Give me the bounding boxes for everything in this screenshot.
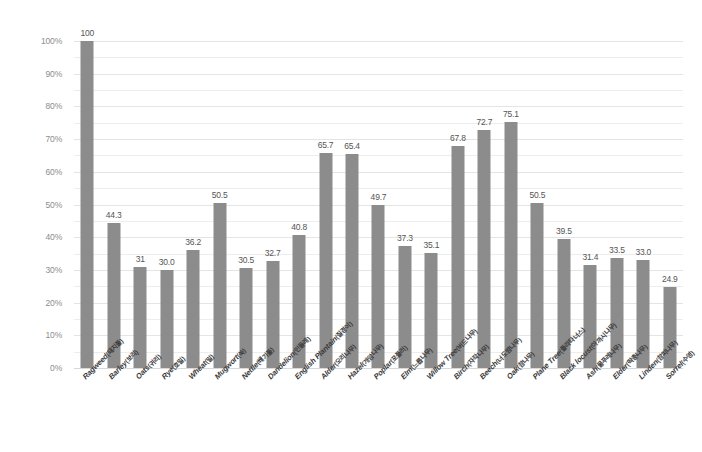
bar-value-label: 31.4 (582, 252, 598, 262)
y-tick-label: 30% (22, 265, 62, 275)
bar-value-label: 75.1 (503, 109, 519, 119)
bar-value-label: 36.2 (185, 237, 201, 247)
bar[interactable] (213, 203, 226, 368)
bar-value-label: 33.5 (609, 245, 625, 255)
bar[interactable] (187, 250, 200, 368)
y-tick-label: 90% (22, 69, 62, 79)
bar-slot: 24.9 (657, 41, 683, 368)
bar-value-label: 24.9 (662, 274, 678, 284)
y-tick-label: 60% (22, 167, 62, 177)
bar-slot: 65.7 (312, 41, 338, 368)
y-axis: 0%10%20%30%40%50%60%70%80%90%100% (0, 41, 66, 368)
bar-value-label: 32.7 (265, 248, 281, 258)
bar-slot: 32.7 (259, 41, 285, 368)
y-tick-label: 70% (22, 134, 62, 144)
bar-value-label: 65.7 (318, 140, 334, 150)
bar-slot: 40.8 (286, 41, 312, 368)
bar-slot: 65.4 (339, 41, 365, 368)
bar-value-label: 37.3 (397, 233, 413, 243)
y-tick-label: 10% (22, 330, 62, 340)
bar-value-label: 33.0 (635, 247, 651, 257)
bar-slot: 72.7 (471, 41, 497, 368)
bar[interactable] (346, 154, 359, 368)
bar-slot: 33.0 (630, 41, 656, 368)
y-tick-label: 100% (22, 36, 62, 46)
bar[interactable] (531, 203, 544, 368)
bar-value-label: 40.8 (291, 222, 307, 232)
bar-value-label: 35.1 (424, 240, 440, 250)
y-tick-label: 20% (22, 298, 62, 308)
y-tick-label: 50% (22, 200, 62, 210)
bar-value-label: 67.8 (450, 133, 466, 143)
bar-slot: 100 (74, 41, 100, 368)
bar-value-label: 30.5 (238, 255, 254, 265)
bar-value-label: 100 (80, 28, 94, 38)
bar[interactable] (81, 41, 94, 368)
x-axis-categories: Ragweed(돼지풀)Barley(보리)Oats(귀리)Rye(호밀)Whe… (74, 372, 683, 452)
bar[interactable] (478, 130, 491, 368)
bar-slot: 44.3 (100, 41, 126, 368)
bar-value-label: 50.5 (212, 190, 228, 200)
bar-slot: 39.5 (551, 41, 577, 368)
bar-slot: 75.1 (498, 41, 524, 368)
bar-slot: 37.3 (392, 41, 418, 368)
bar-slot: 31 (127, 41, 153, 368)
bar-slot: 33.5 (604, 41, 630, 368)
bar-slot: 36.2 (180, 41, 206, 368)
bar-slot: 49.7 (365, 41, 391, 368)
bar-value-label: 39.5 (556, 226, 572, 236)
bar-value-label: 30.0 (159, 257, 175, 267)
bar-value-label: 49.7 (371, 192, 387, 202)
bar-slot: 50.5 (206, 41, 232, 368)
y-tick-label: 40% (22, 232, 62, 242)
bar-slot: 35.1 (418, 41, 444, 368)
bar-value-label: 31 (136, 254, 145, 264)
bar-slot: 67.8 (445, 41, 471, 368)
bar-slot: 30.0 (153, 41, 179, 368)
bar-chart: 0%10%20%30%40%50%60%70%80%90%100% 10044.… (0, 0, 702, 452)
bar-slot: 50.5 (524, 41, 550, 368)
bars-layer: 10044.33130.036.250.530.532.740.865.765.… (74, 41, 683, 368)
bar-value-label: 72.7 (477, 117, 493, 127)
bar-value-label: 65.4 (344, 141, 360, 151)
bar-value-label: 44.3 (106, 210, 122, 220)
bar[interactable] (504, 122, 517, 368)
bar[interactable] (160, 270, 173, 368)
y-tick-label: 80% (22, 101, 62, 111)
bar-slot: 30.5 (233, 41, 259, 368)
bar-slot: 31.4 (577, 41, 603, 368)
y-tick-label: 0% (22, 363, 62, 373)
bar-value-label: 50.5 (529, 190, 545, 200)
